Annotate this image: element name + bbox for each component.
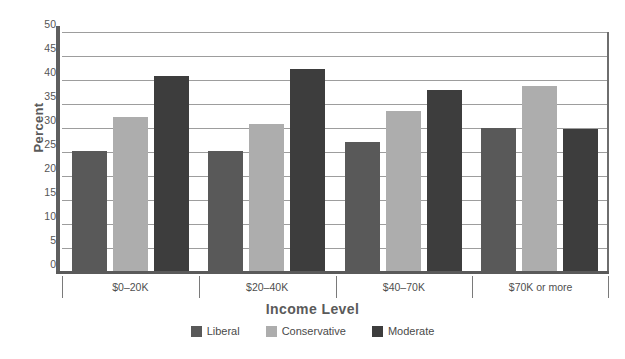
category-cell: $0–20K — [62, 274, 199, 300]
category-divider — [336, 276, 337, 298]
x-axis-tick-label: $20–40K — [246, 281, 288, 293]
bar-liberal-1 — [208, 151, 243, 272]
bar-liberal-0 — [72, 151, 107, 272]
category-cell: $20–40K — [199, 274, 336, 300]
category-divider — [199, 276, 200, 298]
legend-label: Liberal — [207, 325, 240, 337]
legend-swatch-icon — [372, 326, 383, 337]
x-axis-title: Income Level — [0, 301, 625, 317]
y-axis-tick-label: 40 — [28, 67, 56, 77]
bar-moderate-3 — [563, 129, 598, 272]
bar-conservative-2 — [386, 111, 421, 272]
y-axis-tick-label: 50 — [28, 19, 56, 29]
bar-moderate-0 — [154, 76, 189, 272]
category-axis: $0–20K$20–40K$40–70K$70K or more — [62, 274, 609, 300]
bar-moderate-2 — [427, 90, 462, 272]
y-axis-tick-label: 5 — [28, 235, 56, 245]
legend-label: Conservative — [282, 325, 346, 337]
bar-moderate-1 — [290, 69, 325, 272]
category-divider — [472, 276, 473, 298]
x-axis-tick-label: $40–70K — [383, 281, 425, 293]
chart-legend: LiberalConservativeModerate — [0, 325, 625, 337]
plot-area — [62, 32, 608, 272]
y-axis-tick-label: 20 — [28, 163, 56, 173]
bar-liberal-3 — [481, 128, 516, 272]
y-axis-tick-label: 45 — [28, 43, 56, 53]
bar-conservative-3 — [522, 86, 557, 272]
legend-label: Moderate — [388, 325, 434, 337]
x-axis-tick-label: $0–20K — [112, 281, 148, 293]
legend-item-liberal[interactable]: Liberal — [191, 325, 240, 337]
legend-swatch-icon — [191, 326, 202, 337]
category-divider — [608, 276, 609, 298]
category-cell: $40–70K — [336, 274, 473, 300]
y-axis-tick-label: 10 — [28, 211, 56, 221]
y-axis-tick-label: 30 — [28, 115, 56, 125]
plot-right-border — [607, 32, 609, 273]
bar-conservative-1 — [249, 124, 284, 272]
y-axis-tick-label: 25 — [28, 139, 56, 149]
bar-conservative-0 — [113, 117, 148, 272]
bar-chart: Percent 05101520253035404550 $0–20K$20–4… — [0, 0, 625, 359]
legend-item-moderate[interactable]: Moderate — [372, 325, 434, 337]
x-axis-tick-label: $70K or more — [509, 281, 573, 293]
grid-line — [62, 56, 608, 57]
category-cell: $70K or more — [472, 274, 609, 300]
category-divider — [62, 276, 63, 298]
y-axis-tick-label: 0 — [28, 259, 56, 269]
grid-line — [62, 32, 608, 33]
legend-swatch-icon — [266, 326, 277, 337]
y-axis-tick-label: 35 — [28, 91, 56, 101]
bar-liberal-2 — [345, 142, 380, 272]
y-axis-tick-labels: 05101520253035404550 — [28, 24, 56, 280]
legend-item-conservative[interactable]: Conservative — [266, 325, 346, 337]
y-axis-tick-label: 15 — [28, 187, 56, 197]
grid-line — [62, 80, 608, 81]
y-axis-spine — [56, 26, 60, 274]
